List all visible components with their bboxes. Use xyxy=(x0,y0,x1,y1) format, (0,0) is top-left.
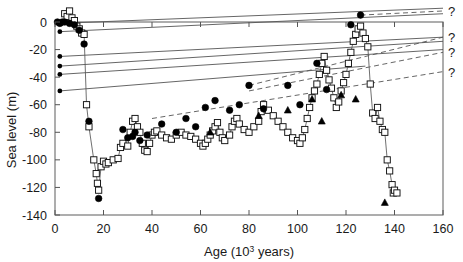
data-point-open-square xyxy=(336,99,342,105)
uplift-line-origin-dot xyxy=(57,89,62,94)
data-point-filled-circle xyxy=(236,101,243,108)
data-point-filled-circle xyxy=(158,121,165,128)
data-point-open-square xyxy=(324,67,330,73)
data-point-filled-circle xyxy=(76,27,83,34)
data-point-open-square xyxy=(348,49,354,55)
data-point-open-square xyxy=(384,157,390,163)
data-point-filled-circle xyxy=(183,115,190,122)
data-point-open-square xyxy=(387,168,393,174)
x-tick-label: 40 xyxy=(145,222,159,236)
data-point-filled-triangle xyxy=(284,107,291,114)
data-point-open-square xyxy=(302,126,308,132)
data-point-filled-circle xyxy=(357,12,364,19)
data-point-open-square xyxy=(316,71,322,77)
data-point-filled-circle xyxy=(81,41,88,48)
data-point-open-square xyxy=(214,120,220,126)
data-point-open-square xyxy=(96,187,102,193)
data-point-filled-circle xyxy=(137,137,144,144)
data-point-filled-circle xyxy=(71,21,78,28)
data-point-open-square xyxy=(93,171,99,177)
data-point-filled-circle xyxy=(246,82,253,89)
data-point-open-square xyxy=(343,71,349,77)
series-line-layer xyxy=(60,8,443,193)
y-tick-label: -140 xyxy=(22,209,47,223)
data-point-open-square xyxy=(377,118,383,124)
data-point-open-square xyxy=(367,81,373,87)
data-point-open-square xyxy=(345,60,351,66)
data-point-open-square xyxy=(304,115,310,121)
y-tick-label: -80 xyxy=(29,126,47,140)
uplift-line-origin-dot xyxy=(57,29,62,34)
data-point-filled-circle xyxy=(86,118,93,125)
x-tick-label: 60 xyxy=(194,222,208,236)
y-tick-label: -100 xyxy=(22,153,47,167)
y-tick-label: -120 xyxy=(22,181,47,195)
data-point-open-square xyxy=(311,88,317,94)
x-tick-label: 80 xyxy=(242,222,256,236)
data-point-open-square xyxy=(382,129,388,135)
data-point-open-square xyxy=(144,148,150,154)
plot-frame xyxy=(55,22,443,215)
uplift-line-origin-dot xyxy=(57,72,62,77)
data-point-filled-circle xyxy=(323,86,330,93)
x-tick-label: 120 xyxy=(336,222,357,236)
x-axis-title: Age (103 years) xyxy=(204,244,294,259)
x-tick-label: 100 xyxy=(287,222,308,236)
data-point-filled-circle xyxy=(285,82,292,89)
question-mark-annotation: ? xyxy=(448,65,455,80)
series-line-dashed-extrapolation-4 xyxy=(152,72,443,119)
y-tick-label: -40 xyxy=(29,71,47,85)
axis-ticks xyxy=(55,22,443,215)
y-tick-label: 0 xyxy=(40,16,47,30)
data-point-open-square xyxy=(362,35,368,41)
data-point-open-square xyxy=(340,80,346,86)
question-mark-annotation: ? xyxy=(448,4,455,19)
data-point-filled-circle xyxy=(95,195,102,202)
series-line-solid-uplift-line-1 xyxy=(60,8,443,23)
x-tick-label: 20 xyxy=(97,222,111,236)
data-point-filled-triangle xyxy=(381,199,388,206)
y-tick-label: -60 xyxy=(29,98,47,112)
data-point-open-square xyxy=(83,102,89,108)
data-point-open-square xyxy=(227,132,233,138)
question-mark-annotation: ? xyxy=(448,45,455,60)
data-point-open-square xyxy=(132,115,138,121)
x-tick-label: 0 xyxy=(52,222,59,236)
data-point-open-square xyxy=(357,23,363,29)
series-marker-layer xyxy=(54,8,400,206)
data-point-filled-triangle xyxy=(352,96,359,103)
data-point-open-square xyxy=(115,155,121,161)
sea-level-chart-figure: 0204060801001201401600-20-40-60-80-100-1… xyxy=(0,0,463,262)
data-point-open-square xyxy=(365,44,371,50)
y-tick-label: -20 xyxy=(29,43,47,57)
data-point-open-square xyxy=(394,190,400,196)
data-point-open-square xyxy=(374,104,380,110)
data-point-open-square xyxy=(256,118,262,124)
data-point-filled-circle xyxy=(120,126,127,133)
data-point-filled-circle xyxy=(314,60,321,67)
data-point-open-square xyxy=(299,135,305,141)
x-tick-label: 140 xyxy=(384,222,405,236)
data-point-open-square xyxy=(66,8,72,14)
data-point-filled-circle xyxy=(132,129,139,136)
data-point-open-square xyxy=(91,157,97,163)
question-mark-annotation: ? xyxy=(448,30,455,45)
data-point-filled-circle xyxy=(144,132,151,139)
data-point-filled-circle xyxy=(212,97,219,104)
data-point-filled-circle xyxy=(173,129,180,136)
series-line-open-square-record xyxy=(65,11,397,193)
data-point-open-square xyxy=(146,140,152,146)
data-point-open-square xyxy=(125,143,131,149)
data-point-open-square xyxy=(94,180,100,186)
annotation-layer: ???? xyxy=(448,4,455,80)
data-point-filled-circle xyxy=(192,123,199,130)
series-line-solid-uplift-line-2 xyxy=(60,14,443,32)
data-point-open-square xyxy=(321,53,327,59)
data-point-open-square xyxy=(326,77,332,83)
data-point-filled-circle xyxy=(260,106,267,113)
uplift-line-origin-dot xyxy=(57,64,62,69)
data-point-open-square xyxy=(350,38,356,44)
data-point-open-square xyxy=(307,104,313,110)
data-point-filled-circle xyxy=(226,107,233,114)
uplift-line-origin-dot xyxy=(57,54,62,59)
